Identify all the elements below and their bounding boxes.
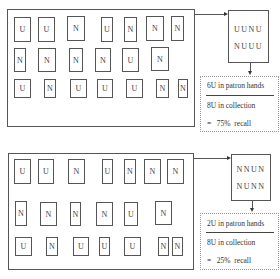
denominator-text: 8U in collection <box>207 238 255 247</box>
recall-result: = 25% recall <box>207 256 251 265</box>
book-item: N <box>38 48 56 72</box>
book-item: N <box>40 202 57 226</box>
book-item: N <box>15 201 27 226</box>
book-item: U <box>14 159 31 184</box>
fraction-bar <box>206 95 274 96</box>
sample-line-2: NUUU <box>229 42 268 51</box>
book-item: N <box>68 159 85 184</box>
book-item: N <box>14 48 26 72</box>
book-item: U <box>14 17 31 42</box>
book-item: U <box>102 159 113 184</box>
book-item: N <box>155 201 172 225</box>
fraction-bar <box>206 232 274 233</box>
book-item: U <box>97 79 113 98</box>
book-item: N <box>67 16 85 41</box>
connector-line <box>193 158 228 159</box>
book-item: U <box>38 159 54 184</box>
book-item: U <box>126 79 143 98</box>
book-item: U <box>124 202 138 226</box>
sample-line-1: UUNU <box>229 25 268 34</box>
sample-line-1: NNUN <box>232 165 270 174</box>
book-item: U <box>15 237 32 256</box>
numerator-text: 2U in patron hands <box>207 219 264 228</box>
denominator-text: 8U in collection <box>207 101 255 110</box>
book-item: N <box>69 48 83 72</box>
book-item: N <box>96 202 113 226</box>
book-item: N <box>167 159 184 184</box>
book-item: U <box>14 79 31 98</box>
sample-line-2: NUNN <box>232 182 270 191</box>
book-item: N <box>172 237 183 256</box>
book-item: U <box>73 237 89 256</box>
arrow-down-icon <box>248 71 252 75</box>
book-item: N <box>156 79 169 98</box>
recall-calc-box-top: 6U in patron hands 8U in collection = 75… <box>200 76 279 132</box>
book-item: N <box>178 79 188 98</box>
recall-calc-box-bottom: 2U in patron hands 8U in collection = 25… <box>200 213 279 270</box>
book-item: N <box>146 16 164 41</box>
patron-sample-box-bottom: NNUN NUNN <box>231 154 271 201</box>
book-item: U <box>124 237 141 256</box>
book-item: N <box>144 159 161 184</box>
book-item: N <box>124 17 137 42</box>
book-item: U <box>70 79 87 98</box>
book-item: N <box>158 237 169 256</box>
book-item: N <box>124 159 136 184</box>
numerator-text: 6U in patron hands <box>207 81 264 90</box>
connector-line <box>194 14 225 15</box>
book-item: U <box>99 237 110 256</box>
book-item: N <box>95 48 111 72</box>
book-item: N <box>151 47 169 71</box>
book-item: N <box>171 16 184 41</box>
book-item: N <box>44 79 56 98</box>
arrow-down-icon <box>250 208 254 212</box>
book-item: U <box>122 48 139 72</box>
recall-result: = 75% recall <box>207 119 251 128</box>
book-item: U <box>38 17 55 42</box>
book-item: N <box>70 202 81 226</box>
book-item: U <box>101 17 113 42</box>
book-item: N <box>46 237 58 256</box>
patron-sample-box-top: UUNU NUUU <box>228 10 269 63</box>
